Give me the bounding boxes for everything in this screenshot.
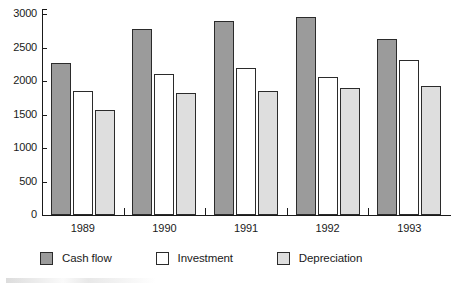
bar-investment-1990 bbox=[154, 74, 174, 215]
bar-investment-1992 bbox=[318, 77, 338, 215]
x-axis-line bbox=[42, 215, 451, 216]
y-axis-tick bbox=[42, 215, 47, 216]
legend-label: Depreciation bbox=[299, 252, 362, 265]
legend-swatch-icon bbox=[156, 252, 169, 265]
bar-investment-1993 bbox=[399, 60, 419, 215]
bar-depreciation-1992 bbox=[340, 88, 360, 215]
y-axis-label: 1500 bbox=[13, 109, 37, 120]
plot-area bbox=[42, 14, 450, 215]
y-axis-top-cap bbox=[42, 9, 47, 10]
bar-depreciation-1991 bbox=[258, 91, 278, 215]
x-axis-label-1993: 1993 bbox=[368, 222, 450, 234]
y-axis-label: 2500 bbox=[13, 42, 37, 53]
legend-swatch-icon bbox=[277, 252, 290, 265]
bar-chart: 050010001500200025003000 198919901991199… bbox=[0, 0, 456, 283]
legend-label: Investment bbox=[178, 252, 233, 265]
x-axis-tick bbox=[124, 208, 125, 215]
bar-investment-1989 bbox=[73, 91, 93, 215]
x-axis-label-1992: 1992 bbox=[287, 222, 369, 234]
chart-legend: Cash flowInvestmentDepreciation bbox=[40, 252, 406, 265]
bar-depreciation-1989 bbox=[95, 110, 115, 215]
y-axis-label: 500 bbox=[19, 176, 37, 187]
x-axis-label-1990: 1990 bbox=[124, 222, 206, 234]
y-axis-label: 2000 bbox=[13, 75, 37, 86]
x-axis-tick bbox=[205, 208, 206, 215]
scan-artifact bbox=[6, 278, 156, 283]
bar-cash-flow-1989 bbox=[51, 63, 71, 215]
legend-label: Cash flow bbox=[62, 252, 112, 265]
y-axis-label: 0 bbox=[31, 209, 37, 220]
bar-cash-flow-1993 bbox=[377, 39, 397, 215]
x-axis-tick bbox=[287, 208, 288, 215]
x-axis-label-1991: 1991 bbox=[205, 222, 287, 234]
bar-cash-flow-1991 bbox=[214, 21, 234, 215]
x-axis-tick bbox=[368, 208, 369, 215]
bar-depreciation-1990 bbox=[176, 93, 196, 215]
y-axis-label: 1000 bbox=[13, 142, 37, 153]
bar-cash-flow-1992 bbox=[296, 17, 316, 215]
legend-entry-investment[interactable]: Investment bbox=[156, 252, 233, 265]
bar-cash-flow-1990 bbox=[132, 29, 152, 215]
x-axis-label-1989: 1989 bbox=[42, 222, 124, 234]
legend-entry-cash-flow[interactable]: Cash flow bbox=[40, 252, 112, 265]
bar-depreciation-1993 bbox=[421, 86, 441, 215]
legend-entry-depreciation[interactable]: Depreciation bbox=[277, 252, 362, 265]
y-axis-label: 3000 bbox=[13, 8, 37, 19]
legend-swatch-icon bbox=[40, 252, 53, 265]
bar-investment-1991 bbox=[236, 68, 256, 215]
